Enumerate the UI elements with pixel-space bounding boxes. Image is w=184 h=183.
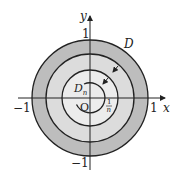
x-tick-neg-label: −1 [13, 101, 31, 115]
x-axis-label: x [163, 101, 170, 115]
region-Dn-label-main: D [73, 82, 83, 95]
y-tick-neg-label: −1 [71, 156, 89, 170]
x-tick-pos-label: 1 [150, 101, 158, 115]
region-D-label: D [123, 37, 134, 51]
y-tick-pos-label: 1 [82, 27, 90, 41]
diagram-canvas: y 1 −1 −1 1 x O D Dn 1 n [0, 0, 184, 183]
radius-fraction-denominator: n [107, 106, 112, 114]
y-axis-label: y [79, 9, 87, 23]
radius-fraction-numerator: 1 [107, 98, 111, 106]
origin-label: O [80, 101, 89, 114]
region-Dn-label-sub: n [83, 89, 88, 97]
